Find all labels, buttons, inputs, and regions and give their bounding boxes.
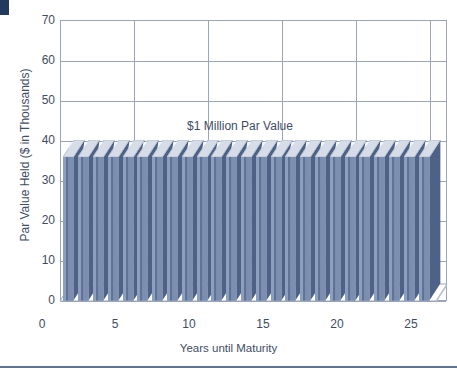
bars-group bbox=[60, 20, 447, 320]
bar-24 bbox=[404, 140, 414, 301]
bar-12 bbox=[226, 140, 236, 301]
x-tick-label: 20 bbox=[317, 318, 357, 330]
bar-8 bbox=[167, 140, 177, 301]
bar-15 bbox=[271, 140, 281, 301]
annotation-par-value: $1 Million Par Value bbox=[120, 119, 360, 133]
bar-5 bbox=[123, 140, 133, 301]
bar-11 bbox=[211, 140, 221, 301]
bar-1 bbox=[63, 140, 73, 301]
bar-20 bbox=[345, 140, 355, 301]
bar-14 bbox=[256, 140, 266, 301]
bar-4 bbox=[108, 140, 118, 301]
bar-17 bbox=[300, 140, 310, 301]
bar-23 bbox=[389, 140, 399, 301]
y-tick-label: 70 bbox=[3, 14, 55, 26]
bar-7 bbox=[152, 140, 162, 301]
x-tick-label: 5 bbox=[95, 318, 135, 330]
bar-16 bbox=[285, 140, 295, 301]
bar-2 bbox=[78, 140, 88, 301]
y-axis-title: Par Value Held ($ in Thousands) bbox=[18, 30, 32, 280]
chart-page: $1 Million Par Value 70 60 50 40 30 20 1… bbox=[0, 0, 457, 370]
y-tick-label: 0 bbox=[3, 294, 55, 306]
x-tick-label: 0 bbox=[22, 318, 62, 330]
bar-13 bbox=[241, 140, 251, 301]
bar-9 bbox=[182, 140, 192, 301]
bar-25 bbox=[419, 140, 429, 301]
bar-6 bbox=[137, 140, 147, 301]
bar-3 bbox=[93, 140, 103, 301]
bar-22 bbox=[374, 140, 384, 301]
x-tick-label: 25 bbox=[391, 318, 431, 330]
footer-rule bbox=[0, 366, 457, 368]
bar-19 bbox=[330, 140, 340, 301]
bar-18 bbox=[315, 140, 325, 301]
x-tick-label: 10 bbox=[169, 318, 209, 330]
bar-10 bbox=[197, 140, 207, 301]
y-axis: 70 60 50 40 30 20 10 0 Par Value Held ($… bbox=[0, 0, 55, 370]
x-axis-title: Years until Maturity bbox=[0, 342, 457, 354]
x-tick-label: 15 bbox=[243, 318, 283, 330]
bar-21 bbox=[359, 140, 369, 301]
